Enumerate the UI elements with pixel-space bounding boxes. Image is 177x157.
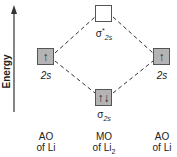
bonding-mo-box: ↑↓	[95, 89, 112, 106]
right-ao-box: ↑	[153, 48, 170, 65]
spin-up-arrow: ↑	[159, 51, 165, 63]
antibonding-mo-label: σ*2s	[90, 25, 118, 43]
left-column-label: AOof Li	[26, 131, 66, 153]
bonding-mo-label: σ2s	[90, 109, 118, 124]
energy-axis-label: Energy	[1, 52, 12, 92]
left-ao-label: 2s	[35, 70, 57, 81]
spin-pair-arrows: ↑↓	[98, 92, 110, 104]
middle-column-label: MOof Li2	[84, 131, 124, 157]
left-ao-box: ↑	[37, 48, 54, 65]
arrow-up-icon	[11, 5, 17, 14]
antibonding-mo-box	[95, 5, 112, 22]
right-ao-label: 2s	[151, 70, 173, 81]
right-column-label: AOof Li	[142, 131, 177, 153]
spin-up-arrow: ↑	[43, 51, 49, 63]
